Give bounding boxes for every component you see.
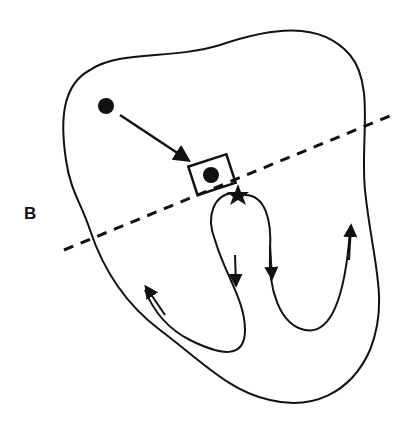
right-loop	[245, 195, 350, 330]
left-loop	[145, 193, 245, 352]
target-dot	[203, 167, 219, 183]
arrow-to-box	[120, 115, 188, 160]
dashed-plane-line	[64, 115, 392, 250]
origin-dot	[98, 98, 114, 114]
left-loop-down-arrow	[235, 255, 236, 285]
heart-diagram	[0, 0, 404, 438]
heart-outline	[63, 30, 379, 402]
